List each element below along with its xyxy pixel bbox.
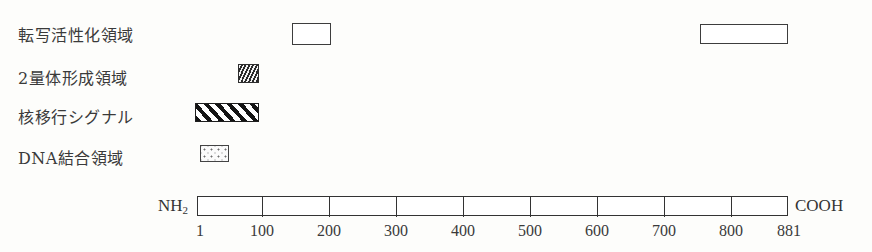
- axis-tick-500: [530, 197, 531, 217]
- axis-tick-label-881: 881: [777, 222, 801, 240]
- axis-tick-label-300: 300: [384, 222, 408, 240]
- axis-tick-800: [731, 197, 732, 217]
- axis-tick-label-400: 400: [451, 222, 475, 240]
- domain-block-transcription-activation-1: [292, 23, 331, 45]
- axis-tick-label-100: 100: [250, 222, 274, 240]
- n-terminus-text: NH: [158, 196, 183, 215]
- axis-tick-300: [396, 197, 397, 217]
- c-terminus-label: COOH: [795, 196, 843, 216]
- axis-tick-700: [664, 197, 665, 217]
- domain-block-dna-binding: [200, 145, 229, 162]
- axis-tick-label-500: 500: [518, 222, 542, 240]
- domain-block-dimerization: [238, 64, 259, 83]
- axis-tick-label-600: 600: [585, 222, 609, 240]
- n-terminus-label: NH2: [158, 196, 188, 216]
- axis-tick-600: [597, 197, 598, 217]
- axis-tick-label-1: 1: [196, 222, 204, 240]
- legend-label-transcription-activation: 転写活性化領域: [18, 22, 134, 46]
- axis-tick-label-200: 200: [317, 222, 341, 240]
- protein-domain-diagram: 転写活性化領域 2量体形成領域 核移行シグナル DNA結合領域 NH2 COOH…: [0, 0, 872, 252]
- legend-label-nuclear-localization-signal: 核移行シグナル: [18, 104, 134, 128]
- axis-tick-200: [329, 197, 330, 217]
- axis-tick-label-700: 700: [652, 222, 676, 240]
- legend-label-dna-binding: DNA結合領域: [18, 145, 124, 169]
- axis-tick-400: [463, 197, 464, 217]
- domain-block-transcription-activation-2: [700, 24, 788, 44]
- axis-tick-100: [262, 197, 263, 217]
- axis-tick-label-800: 800: [719, 222, 743, 240]
- legend-label-dimerization: 2量体形成領域: [18, 65, 128, 89]
- domain-block-nuclear-localization-signal: [195, 103, 259, 122]
- protein-length-bar: [197, 196, 788, 216]
- n-terminus-subscript: 2: [183, 204, 189, 216]
